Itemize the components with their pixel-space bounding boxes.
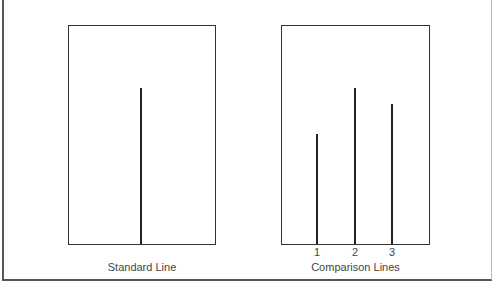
comparison-label-1: 1 xyxy=(307,246,327,258)
standard-line xyxy=(140,88,142,244)
comparison-line-1 xyxy=(316,134,318,244)
comparison-label-2: 2 xyxy=(345,246,365,258)
standard-panel xyxy=(68,25,216,245)
comparison-caption: Comparison Lines xyxy=(281,261,430,273)
standard-caption: Standard Line xyxy=(68,261,216,273)
comparison-label-3: 3 xyxy=(382,246,402,258)
comparison-line-2 xyxy=(354,88,356,244)
comparison-line-3 xyxy=(391,104,393,244)
